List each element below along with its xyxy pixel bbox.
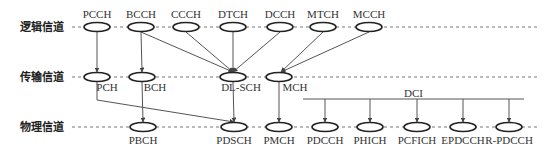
logical-channel-ccch — [173, 23, 199, 32]
channel-label: MTCH — [307, 8, 339, 20]
channel-label: PBCH — [129, 134, 158, 146]
channel-label: PDSCH — [216, 134, 252, 146]
physical-channel-epdcch — [450, 123, 476, 132]
row-label: 物理信道 — [20, 120, 64, 134]
channel-label: PCH — [96, 81, 117, 93]
row-label: 逻辑信道 — [20, 20, 64, 34]
mapping-arrow — [281, 32, 369, 72]
mapping-arrow — [141, 32, 142, 72]
physical-channel-pmch — [266, 123, 292, 132]
channel-label: BCCH — [126, 8, 156, 20]
channel-label: EPDCCH — [441, 134, 484, 146]
physical-channel-r-pdcch — [496, 123, 522, 132]
logical-channel-pcch — [84, 23, 110, 32]
channel-label: CCCH — [171, 8, 201, 20]
channel-label: PCFICH — [398, 134, 437, 146]
physical-channel-pdcch — [312, 123, 338, 132]
logical-channel-dcch — [267, 23, 293, 32]
mapping-arrow — [186, 32, 233, 72]
mapping-arrow — [233, 32, 280, 72]
channel-label: MCCH — [353, 8, 385, 20]
dci-label: DCI — [404, 87, 423, 99]
logical-channel-dtch — [220, 23, 246, 32]
channel-label: PCCH — [83, 8, 112, 20]
channel-label: PHICH — [353, 134, 386, 146]
channel-label: BCH — [144, 81, 167, 93]
physical-channel-pbch — [130, 123, 156, 132]
logical-channel-mcch — [356, 23, 382, 32]
channel-label: DCCH — [265, 8, 296, 20]
channel-label: DTCH — [218, 8, 248, 20]
physical-channel-pcfich — [404, 123, 430, 132]
channel-label: MCH — [282, 81, 307, 93]
channel-mapping-diagram: 逻辑信道传输信道物理信道PCCHBCCHCCCHDTCHDCCHMTCHMCCH… — [0, 0, 560, 155]
row-label: 传输信道 — [19, 70, 64, 84]
physical-channel-phich — [357, 123, 383, 132]
channel-label: PDCCH — [307, 134, 344, 146]
channel-label: DL-SCH — [221, 81, 261, 93]
channel-label: R-PDCCH — [485, 134, 533, 146]
mapping-arrow — [281, 32, 323, 72]
channel-label: PMCH — [263, 134, 294, 146]
logical-channel-bcch — [128, 23, 154, 32]
physical-channel-pdsch — [221, 123, 247, 132]
logical-channel-mtch — [310, 23, 336, 32]
mapping-arrow — [141, 32, 233, 72]
diagram-canvas: 逻辑信道传输信道物理信道PCCHBCCHCCCHDTCHDCCHMTCHMCCH… — [0, 0, 560, 155]
